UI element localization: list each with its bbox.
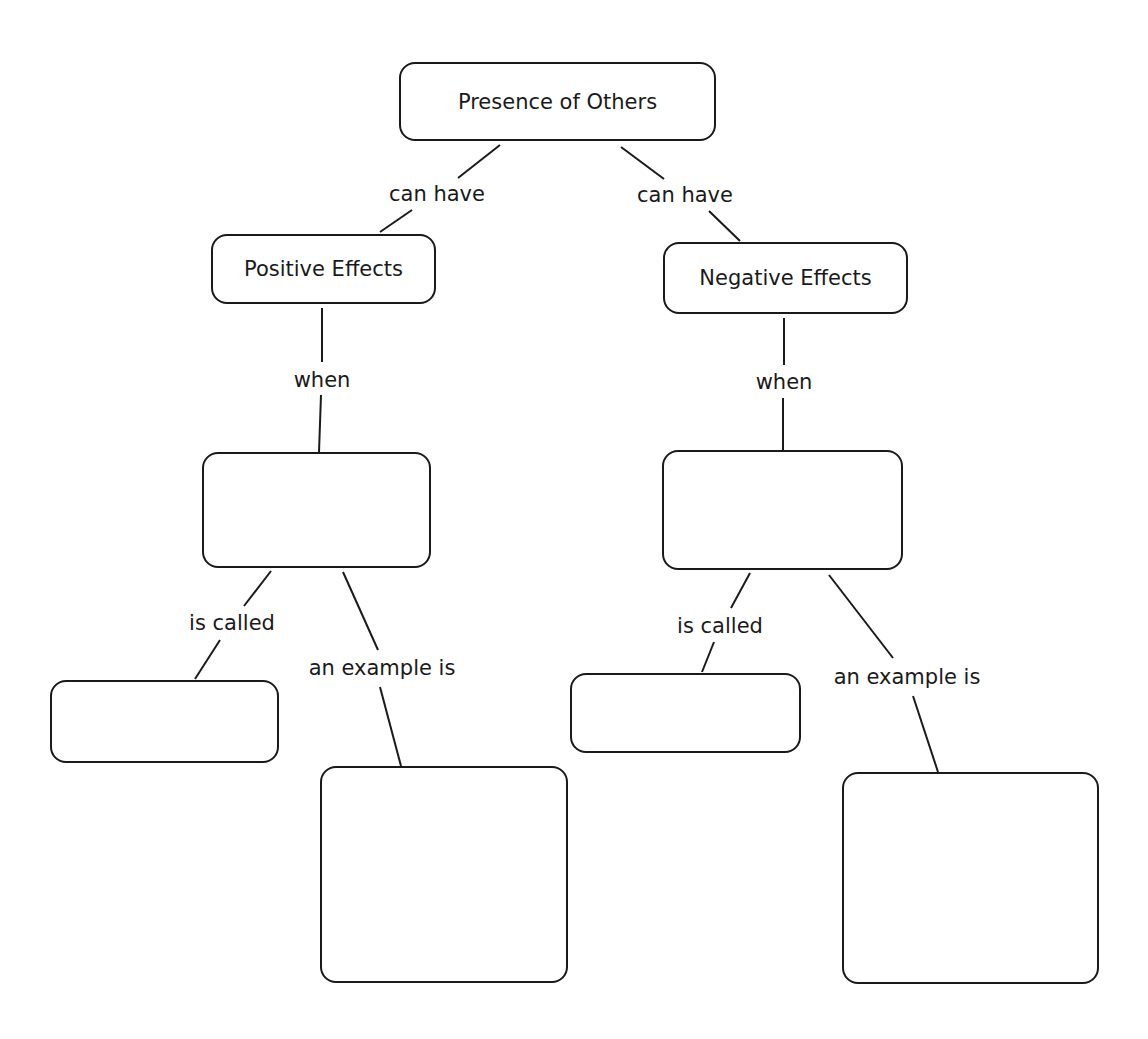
node-negative-example-blank [842, 772, 1099, 984]
node-positive-example-blank [320, 766, 568, 983]
link-label-example-right: an example is [834, 665, 981, 689]
link-label-when-right: when [756, 370, 813, 394]
node-negative-effects: Negative Effects [663, 242, 908, 314]
node-text: Negative Effects [699, 266, 871, 290]
node-negative-called-blank [570, 673, 801, 753]
link-label-example-left: an example is [309, 656, 456, 680]
link-label-can-have-left: can have [389, 182, 485, 206]
link-label-when-left: when [294, 368, 351, 392]
node-text: Positive Effects [244, 257, 403, 281]
link-label-is-called-left: is called [189, 611, 275, 635]
link-label-can-have-right: can have [637, 183, 733, 207]
node-negative-when-blank [662, 450, 903, 570]
node-positive-effects: Positive Effects [211, 234, 436, 304]
node-text: Presence of Others [458, 90, 657, 114]
node-positive-when-blank [202, 452, 431, 568]
node-presence-of-others: Presence of Others [399, 62, 716, 141]
node-positive-called-blank [50, 680, 279, 763]
link-label-is-called-right: is called [677, 614, 763, 638]
